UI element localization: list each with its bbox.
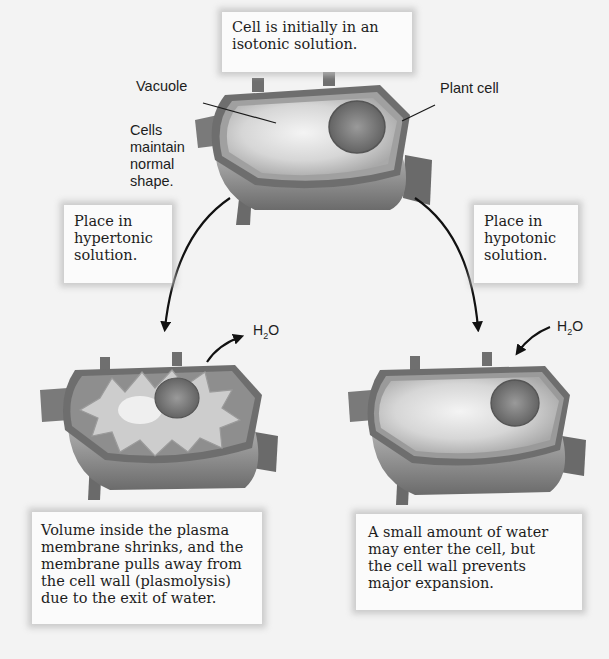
normal-shape-line: maintain [130,139,185,156]
plant-cell-label: Plant cell [440,80,499,97]
water-label-left: H2O [253,322,279,341]
normal-shape-line: shape. [130,173,185,190]
caption-line: the cell wall (plasmolysis) [41,573,253,590]
normal-shape-line: normal [130,156,185,173]
caption-line: major expansion. [368,575,572,592]
caption-line: membrane shrinks, and the [41,539,253,556]
plasmolysis-caption-box: Volume inside the plasma membrane shrink… [32,512,262,624]
turgid-plant-cell [348,352,586,505]
hypotonic-arrow [415,198,478,328]
normal-shape-line: Cells [130,122,185,139]
water-label-right: H2O [557,318,583,337]
caption-line: the cell wall prevents [368,558,572,575]
caption-line: may enter the cell, but [368,541,572,558]
plasmolysed-plant-cell [40,352,278,500]
hypotonic-caption-box: Place in hypotonic solution. [474,205,578,283]
hypertonic-arrow [165,198,230,328]
caption-line: Place in [74,213,162,230]
caption-line: isotonic solution. [232,36,402,53]
water-enter-arrow [518,327,550,352]
isotonic-caption-box: Cell is initially in an isotonic solutio… [222,12,412,72]
caption-line: Cell is initially in an [232,19,402,36]
caption-line: solution. [74,247,162,264]
caption-line: membrane pulls away from [41,556,253,573]
caption-line: hypertonic [74,230,162,247]
isotonic-plant-cell [195,72,432,225]
caption-line: Volume inside the plasma [41,522,253,539]
caption-line: A small amount of water [368,524,572,541]
water-exit-arrow [207,337,240,362]
turgid-caption-box: A small amount of water may enter the ce… [356,514,582,610]
vacuole-label: Vacuole [136,78,187,95]
caption-line: hypotonic [484,230,568,247]
caption-line: Place in [484,213,568,230]
hypertonic-caption-box: Place in hypertonic solution. [64,205,172,283]
normal-shape-label: Cells maintain normal shape. [130,122,185,190]
caption-line: solution. [484,247,568,264]
caption-line: due to the exit of water. [41,590,253,607]
